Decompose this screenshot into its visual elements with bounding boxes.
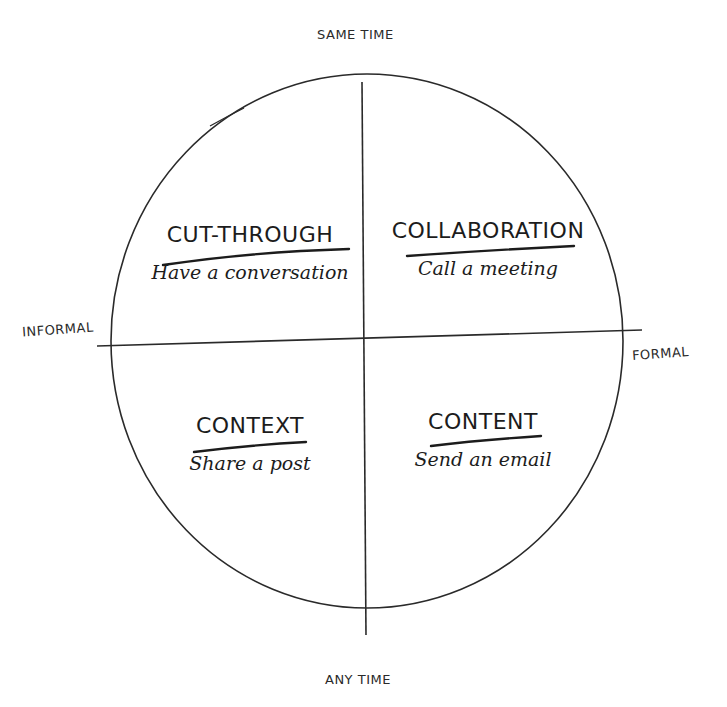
vertical-axis-line	[362, 82, 366, 635]
diagram-canvas	[0, 0, 727, 707]
sketch-overstroke	[210, 108, 244, 126]
quadrant-subtitle: Have a conversation	[140, 261, 360, 283]
quadrant-title: COLLABORATION	[392, 218, 585, 243]
quadrant-subtitle: Call a meeting	[378, 257, 598, 279]
quadrant-collaboration: COLLABORATION Call a meeting	[378, 218, 598, 279]
quadrant-subtitle: Send an email	[378, 448, 588, 470]
quadrant-subtitle: Share a post	[150, 452, 350, 474]
quadrant-circle	[111, 74, 623, 608]
quadrant-title: CONTEXT	[196, 413, 304, 438]
quadrant-title: CUT-THROUGH	[167, 222, 334, 247]
quadrant-title: CONTENT	[428, 409, 538, 434]
quadrant-cut-through: CUT-THROUGH Have a conversation	[140, 222, 360, 283]
quadrant-content: CONTENT Send an email	[378, 409, 588, 470]
quadrant-context: CONTEXT Share a post	[150, 413, 350, 474]
axis-label-top: SAME TIME	[317, 27, 394, 42]
axis-label-bottom: ANY TIME	[325, 672, 391, 687]
horizontal-axis-line	[97, 330, 642, 346]
